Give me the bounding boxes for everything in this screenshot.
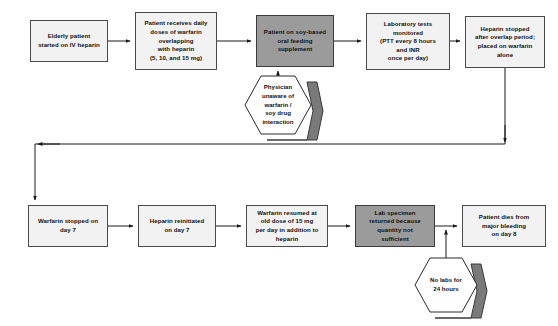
node-warfarin-stopped-label: Warfarin stopped on day 7 [31,217,105,234]
node-heparin-stopped[interactable]: Heparin stopped after overlap period; pl… [465,16,545,68]
node-soy-feeding-label: Patient on soy-based oral feeding supple… [259,28,331,54]
node-lab-specimen-label: Lab specimen returned because quantity n… [358,209,432,244]
node-warfarin-doses[interactable]: Patient receives daily doses of warfarin… [135,12,217,70]
node-heparin-reinitiated-label: Heparin reinitiated on day 7 [141,217,213,234]
hex-no-labs[interactable]: No labs for 24 hours [415,258,477,312]
node-warfarin-doses-label: Patient receives daily doses of warfarin… [138,19,214,62]
node-patient-dies-label: Patient dies from major bleeding on day … [465,213,543,239]
node-lab-specimen[interactable]: Lab specimen returned because quantity n… [355,205,435,247]
node-warfarin-resumed-label: Warfarin resumed at old dose of 15 mg pe… [249,209,325,244]
node-patient-dies[interactable]: Patient dies from major bleeding on day … [462,205,546,247]
node-soy-feeding[interactable]: Patient on soy-based oral feeding supple… [256,15,334,67]
node-warfarin-resumed[interactable]: Warfarin resumed at old dose of 15 mg pe… [246,205,328,247]
flowchart-diagram: Elderly patient started on IV heparin Pa… [0,0,558,326]
hex-no-labs-shape [415,258,477,312]
node-elderly-patient[interactable]: Elderly patient started on IV heparin [30,20,108,62]
node-warfarin-stopped[interactable]: Warfarin stopped on day 7 [28,205,108,247]
hex-physician-unaware[interactable]: Physician unaware of warfarin / soy drug… [245,76,311,134]
node-heparin-reinitiated[interactable]: Heparin reinitiated on day 7 [138,205,216,247]
node-heparin-stopped-label: Heparin stopped after overlap period; pl… [468,25,542,60]
node-lab-tests-label: Laboratory tests monitored (PTT every 8 … [369,20,447,63]
node-elderly-patient-label: Elderly patient started on IV heparin [33,32,105,49]
hex-physician-unaware-shape [245,76,311,134]
node-lab-tests[interactable]: Laboratory tests monitored (PTT every 8 … [366,13,450,70]
